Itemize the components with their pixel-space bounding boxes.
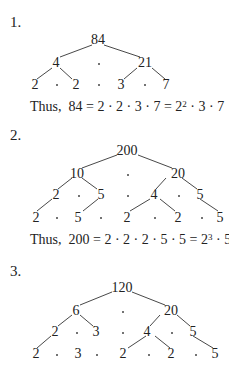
tree-node: 3	[93, 325, 100, 339]
tree-node: 2	[52, 325, 59, 339]
tree-leaf: 2	[73, 78, 80, 92]
problem-number: 1.	[10, 15, 21, 30]
tree-leaf: 2	[120, 347, 127, 361]
tree-root: 120	[112, 281, 133, 295]
tree-node: 4	[144, 325, 151, 339]
tree-leaf: 5	[217, 211, 224, 225]
problem-number: 3.	[10, 264, 21, 279]
tree-leaf: 3	[118, 78, 125, 92]
multiply-dot	[98, 63, 100, 65]
tree-node: 21	[138, 56, 152, 70]
multiply-dot	[148, 354, 150, 356]
multiply-dot	[201, 217, 203, 219]
tree-node: 5	[197, 188, 204, 202]
multiply-dot	[127, 174, 129, 176]
multiply-dot	[122, 311, 124, 313]
tree-node: 10	[70, 167, 84, 181]
multiply-dot	[98, 84, 100, 86]
multiply-dot	[76, 332, 78, 334]
tree-leaf: 7	[163, 78, 170, 92]
multiply-dot	[195, 354, 197, 356]
tree-leaf: 5	[212, 347, 219, 361]
multiply-dot	[100, 217, 102, 219]
tree-leaf: 2	[168, 347, 175, 361]
multiply-dot	[56, 217, 58, 219]
multiply-dot	[56, 354, 58, 356]
tree-node: 20	[164, 304, 178, 318]
tree-leaf: 2	[33, 347, 40, 361]
tree-leaf: 2	[175, 211, 182, 225]
multiply-dot	[144, 84, 146, 86]
multiply-dot	[127, 195, 129, 197]
multiply-dot	[178, 195, 180, 197]
tree-root: 200	[117, 144, 138, 158]
tree-node: 20	[171, 167, 185, 181]
multiply-dot	[78, 195, 80, 197]
tree-leaf: 2	[33, 211, 40, 225]
tree-leaf: 2	[32, 78, 39, 92]
conclusion: Thus, 200 = 2 · 2 · 2 · 5 · 5 = 23 · 52	[30, 233, 229, 247]
multiply-dot	[56, 84, 58, 86]
tree-node: 4	[53, 56, 60, 70]
tree-node: 5	[190, 325, 197, 339]
multiply-dot	[154, 217, 156, 219]
tree-node: 4	[151, 188, 158, 202]
multiply-dot	[122, 332, 124, 334]
multiply-dot	[171, 332, 173, 334]
tree-leaf: 2	[124, 211, 131, 225]
tree-leaf: 5	[75, 211, 82, 225]
tree-leaf: 3	[75, 347, 82, 361]
multiply-dot	[96, 354, 98, 356]
tree-node: 6	[73, 304, 80, 318]
tree-node: 2	[53, 188, 60, 202]
tree-node: 5	[98, 188, 105, 202]
tree-edges	[0, 0, 229, 367]
conclusion: Thus, 84 = 2 · 2 · 3 · 7 = 22 · 3 · 7	[30, 100, 224, 114]
problem-number: 2.	[10, 128, 21, 143]
tree-root: 84	[91, 33, 105, 47]
